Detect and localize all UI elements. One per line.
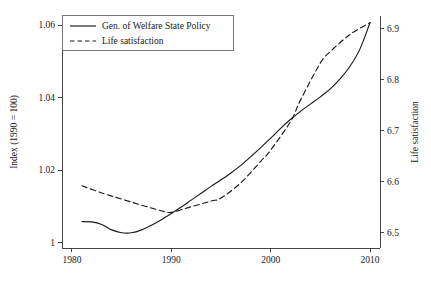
x-tick-label: 2010	[361, 255, 380, 265]
bottom-axis-ticks: 1980199020002010	[62, 248, 379, 265]
left-tick-label: 1.06	[38, 20, 55, 30]
right-tick-label: 6.7	[387, 126, 399, 136]
chart-figure: 11.021.041.06 6.56.66.76.86.9 1980199020…	[0, 0, 431, 283]
left-tick-label: 1.02	[38, 165, 55, 175]
x-tick-label: 1980	[62, 255, 81, 265]
left-tick-label: 1	[50, 238, 55, 248]
data-series-group	[82, 23, 370, 234]
legend-label-0: Gen. of Welfare State Policy	[102, 21, 211, 31]
left-tick-label: 1.04	[38, 93, 55, 103]
legend-label-1: Life satisfaction	[102, 36, 164, 46]
y2-axis-title: Life satisfaction	[410, 101, 420, 163]
y-axis-title: Index (1990 = 100)	[9, 95, 20, 169]
right-tick-label: 6.9	[387, 24, 399, 34]
series-line-1	[82, 23, 370, 213]
left-axis-ticks: 11.021.041.06	[38, 20, 62, 248]
chart-legend: Gen. of Welfare State PolicyLife satisfa…	[62, 15, 233, 50]
right-axis-ticks: 6.56.66.76.86.9	[380, 24, 399, 238]
chart-axes	[62, 16, 380, 248]
x-tick-label: 1990	[162, 255, 181, 265]
line-chart: 11.021.041.06 6.56.66.76.86.9 1980199020…	[0, 0, 431, 283]
right-tick-label: 6.5	[387, 228, 399, 238]
x-tick-label: 2000	[261, 255, 280, 265]
right-tick-label: 6.8	[387, 75, 399, 85]
right-tick-label: 6.6	[387, 177, 399, 187]
